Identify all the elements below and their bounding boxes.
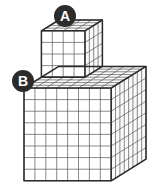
label-badge-a: A xyxy=(54,5,76,27)
cube-solid xyxy=(24,20,146,181)
big-block-front-face xyxy=(24,88,111,181)
isometric-cube-figure: .cellTop { fill:#FDFDFD; stroke:#585858;… xyxy=(0,0,161,192)
small-block-front-face xyxy=(41,31,85,77)
figure-canvas: .cellTop { fill:#FDFDFD; stroke:#585858;… xyxy=(0,0,161,192)
label-badge-b: B xyxy=(12,70,34,92)
